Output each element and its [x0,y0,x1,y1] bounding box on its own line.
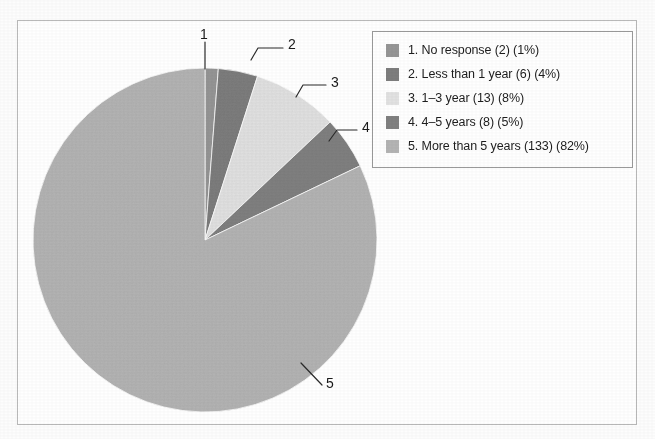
legend-item-label: 2. Less than 1 year (6) (4%) [408,67,560,81]
legend-item[interactable]: 4. 4–5 years (8) (5%) [386,110,624,134]
pie-slices-group [33,68,377,412]
legend-swatch-icon [386,68,399,81]
pie-callout-5: 5 [326,375,334,391]
legend-item[interactable]: 2. Less than 1 year (6) (4%) [386,62,624,86]
pie-callout-3: 3 [331,74,339,90]
legend-item-label: 3. 1–3 year (13) (8%) [408,91,524,105]
leader-line-2 [251,48,283,60]
pie-callout-1: 1 [200,26,208,42]
legend-swatch-icon [386,44,399,57]
legend-swatch-icon [386,116,399,129]
chart-legend: 1. No response (2) (1%) 2. Less than 1 y… [372,31,633,168]
legend-item[interactable]: 3. 1–3 year (13) (8%) [386,86,624,110]
legend-item[interactable]: 1. No response (2) (1%) [386,38,624,62]
pie-callout-2: 2 [288,36,296,52]
leader-line-3 [296,85,326,97]
pie-callout-4: 4 [362,119,370,135]
legend-item-label: 1. No response (2) (1%) [408,43,539,57]
legend-swatch-icon [386,92,399,105]
legend-item[interactable]: 5. More than 5 years (133) (82%) [386,134,624,158]
legend-item-label: 4. 4–5 years (8) (5%) [408,115,523,129]
legend-swatch-icon [386,140,399,153]
legend-item-label: 5. More than 5 years (133) (82%) [408,139,589,153]
